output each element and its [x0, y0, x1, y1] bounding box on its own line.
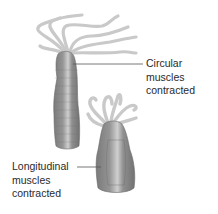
- label-line: Longitudinal: [12, 160, 69, 174]
- label-line: Circular: [146, 57, 195, 71]
- longitudinal-muscles-label: Longitudinal muscles contracted: [12, 160, 69, 201]
- elongated-hydra-tentacles: [38, 15, 136, 53]
- contracted-hydra-body: [96, 121, 135, 193]
- label-line: contracted: [146, 84, 195, 98]
- elongated-hydra-body: [54, 51, 80, 149]
- circular-muscles-label: Circular muscles contracted: [146, 57, 195, 98]
- label-line: muscles: [12, 174, 69, 188]
- label-line: muscles: [146, 71, 195, 85]
- label-line: contracted: [12, 187, 69, 201]
